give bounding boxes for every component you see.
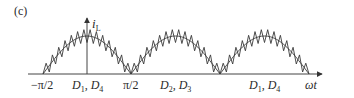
tick-label-pi-over-2: π/2 [123,79,138,91]
inductor-current-waveform-figure: (c) iL ωt −π/2 π/2 D1, D4 D2, D3 D1, D4 [0,0,354,98]
panel-label: (c) [14,5,27,17]
x-axis-label: ωt [305,79,317,91]
region-label-d1-d4-second: D1, D4 [249,79,280,94]
region-label-d2-d3: D2, D3 [160,79,191,94]
y-axis-label: iL [92,17,101,33]
region-label-d1-d4-first: D1, D4 [72,79,103,94]
tick-label-minus-pi-over-2: −π/2 [31,79,53,91]
